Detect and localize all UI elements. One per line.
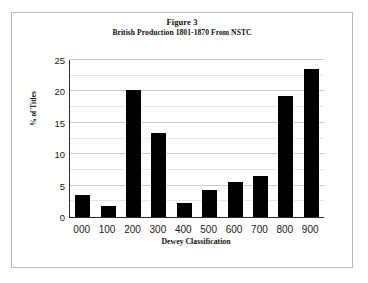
- x-tick-label: 900: [302, 224, 319, 235]
- bar-slot: [299, 60, 324, 217]
- bar-slot: [222, 60, 247, 217]
- chart-subtitle: British Production 1801-1870 From NSTC: [11, 29, 353, 38]
- x-tick-label: 700: [251, 224, 268, 235]
- bar-000[interactable]: [75, 195, 90, 217]
- bar-300[interactable]: [151, 133, 166, 217]
- y-tick-label: 20: [54, 86, 65, 97]
- x-tick-slot: 500: [196, 219, 221, 235]
- bar-slot: [197, 60, 222, 217]
- bars-layer: [70, 60, 324, 217]
- figure-root: Figure 3 British Production 1801-1870 Fr…: [0, 0, 368, 283]
- y-tick-label: 25: [54, 55, 65, 66]
- bar-slot: [248, 60, 273, 217]
- x-tick-slot: 200: [120, 219, 145, 235]
- chart-title: Figure 3: [11, 18, 353, 28]
- y-tick-label: 10: [54, 149, 65, 160]
- x-tick-label: 600: [226, 224, 243, 235]
- bar-slot: [146, 60, 171, 217]
- x-tick-slot: 400: [171, 219, 196, 235]
- bar-slot: [95, 60, 120, 217]
- x-tick-slot: 100: [94, 219, 119, 235]
- bar-slot: [273, 60, 298, 217]
- x-tick-label: 800: [276, 224, 293, 235]
- x-tick-slot: 000: [69, 219, 94, 235]
- bar-400[interactable]: [177, 203, 192, 217]
- x-axis-tick-labels: 000100200300400500600700800900: [69, 219, 323, 235]
- x-tick-label: 400: [175, 224, 192, 235]
- y-axis-tick-labels: 0510152025: [40, 60, 65, 217]
- bar-slot: [172, 60, 197, 217]
- y-tick-label: 0: [60, 212, 65, 223]
- bar-slot: [70, 60, 95, 217]
- x-tick-label: 300: [150, 224, 167, 235]
- y-axis-title: % of Titles: [29, 74, 38, 144]
- bar-500[interactable]: [202, 190, 217, 217]
- x-tick-slot: 600: [221, 219, 246, 235]
- x-tick-label: 500: [200, 224, 217, 235]
- bar-700[interactable]: [253, 176, 268, 217]
- bar-100[interactable]: [101, 206, 116, 217]
- bar-600[interactable]: [228, 182, 243, 217]
- bar-200[interactable]: [126, 90, 141, 217]
- x-tick-slot: 800: [272, 219, 297, 235]
- plot-area: [69, 60, 324, 218]
- bar-slot: [121, 60, 146, 217]
- x-tick-label: 100: [99, 224, 116, 235]
- x-tick-slot: 700: [247, 219, 272, 235]
- bar-900[interactable]: [304, 69, 319, 217]
- x-tick-label: 000: [73, 224, 90, 235]
- x-tick-slot: 900: [298, 219, 323, 235]
- title-block: Figure 3 British Production 1801-1870 Fr…: [11, 18, 353, 37]
- y-tick-label: 5: [60, 180, 65, 191]
- y-tick-label: 15: [54, 117, 65, 128]
- x-tick-slot: 300: [145, 219, 170, 235]
- bar-800[interactable]: [278, 96, 293, 217]
- x-axis-title: Dewey Classification: [69, 237, 323, 246]
- x-tick-label: 200: [124, 224, 141, 235]
